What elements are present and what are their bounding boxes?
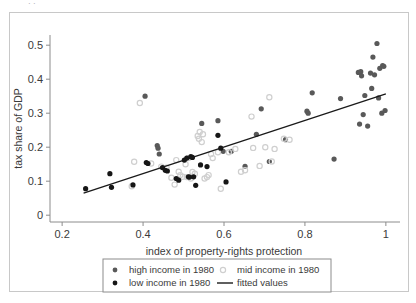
x-tick-label: 0.2 [54,228,69,240]
data-point [204,164,209,169]
data-point [372,72,377,77]
data-point [199,140,204,145]
data-point [374,41,379,46]
x-tick-label: 1 [383,228,389,240]
data-point [365,124,370,129]
data-point [338,96,343,101]
x-tick-label: 0.4 [135,228,150,240]
y-tick-label: 0 [37,209,43,221]
data-point [157,151,162,156]
data-point [257,163,262,168]
y-tick-label: 0.3 [28,107,43,119]
legend-marker-filled-circle [113,281,118,286]
y-axis-title: tax share of GDP [12,88,24,169]
data-point [223,179,228,184]
data-point [215,133,220,138]
series-1 [129,95,292,192]
series-2 [83,133,229,192]
axes-group [46,35,400,226]
data-point [357,121,362,126]
data-point [215,118,220,123]
data-point [359,73,364,78]
data-point [145,161,150,166]
y-tick-label: 0.2 [28,141,43,153]
data-point [272,146,277,151]
data-point [382,108,387,113]
data-point [306,111,311,116]
legend-label: mid income in 1980 [237,264,319,275]
data-point [251,145,256,150]
fitted-line-group [84,94,386,193]
data-point [381,64,386,69]
data-point [130,182,135,187]
data-point [142,94,147,99]
data-point [267,95,272,100]
data-point [193,183,198,188]
x-tick-label: 0.6 [216,228,231,240]
data-point [172,182,177,187]
data-point [198,162,203,167]
legend-label: fitted values [237,277,288,288]
data-point [165,168,170,173]
data-point [132,159,137,164]
data-point [369,86,374,91]
data-point [137,100,142,105]
fitted-values-line [84,94,386,193]
x-axis-title: index of property-rights protection [146,245,303,257]
data-point [199,121,204,126]
data-point [259,106,264,111]
x-tick-label: 0.8 [297,228,312,240]
data-point [107,171,112,176]
data-point [218,186,223,191]
data-point [331,157,336,162]
figure-container: · · 00.10.20.30.40.50.20.40.60.81index o… [0,0,416,303]
data-point [83,186,88,191]
data-point [109,185,114,190]
data-points-group [83,41,388,191]
data-point [249,114,254,119]
legend-marker-filled-circle [113,268,118,273]
y-tick-label: 0.1 [28,175,43,187]
y-tick-label: 0.5 [28,39,43,51]
data-point [176,178,181,183]
axis-labels-group: 00.10.20.30.40.50.20.40.60.81index of pr… [12,39,389,257]
data-point [310,90,315,95]
data-point [361,112,366,117]
data-point [233,146,238,151]
data-point [169,175,174,180]
data-point [370,55,375,60]
data-point [263,145,268,150]
y-tick-label: 0.4 [28,73,43,85]
legend-label: low income in 1980 [129,277,210,288]
data-point [362,93,367,98]
data-point [155,146,160,151]
legend-label: high income in 1980 [129,264,214,275]
legend-box: high income in 1980mid income in 1980low… [103,259,331,292]
scatter-plot: 00.10.20.30.40.50.20.40.60.81index of pr… [0,0,416,303]
data-point [191,174,196,179]
